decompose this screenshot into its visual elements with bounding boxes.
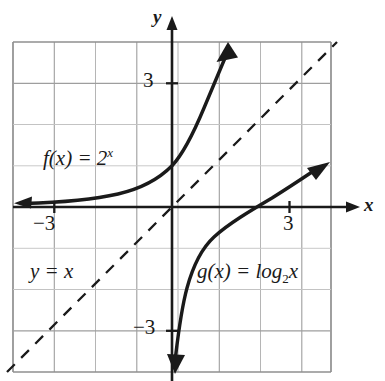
x-axis-label: x: [364, 194, 374, 216]
x-tick-label-3: 3: [283, 211, 294, 236]
graph-figure: y x 3 −3 −3 3 f(x) = 2x g(x) = log2x y =…: [0, 0, 385, 381]
g-function-label: g(x) = log2x: [197, 259, 298, 287]
f-function-label: f(x) = 2x: [43, 145, 113, 171]
y-tick-label-3: 3: [143, 68, 154, 93]
g-curve-right-arrowhead: [307, 162, 330, 180]
x-tick-label-neg3: −3: [33, 211, 55, 236]
graph-canvas: [0, 0, 385, 381]
f-function-label-exponent: x: [107, 145, 113, 160]
g-curve-down-arrowhead: [167, 354, 185, 374]
y-tick-label-neg3: −3: [133, 315, 155, 340]
curve-f-exponential: [14, 42, 238, 209]
g-function-label-base: g(x) = log: [197, 259, 282, 283]
f-function-label-base: f(x) = 2: [43, 146, 107, 170]
identity-line-label: y = x: [30, 259, 73, 284]
y-axis-arrowhead: [167, 16, 178, 30]
g-function-label-tail: x: [289, 259, 298, 283]
y-axis-label: y: [153, 6, 161, 28]
x-axis-arrowhead: [346, 202, 360, 213]
